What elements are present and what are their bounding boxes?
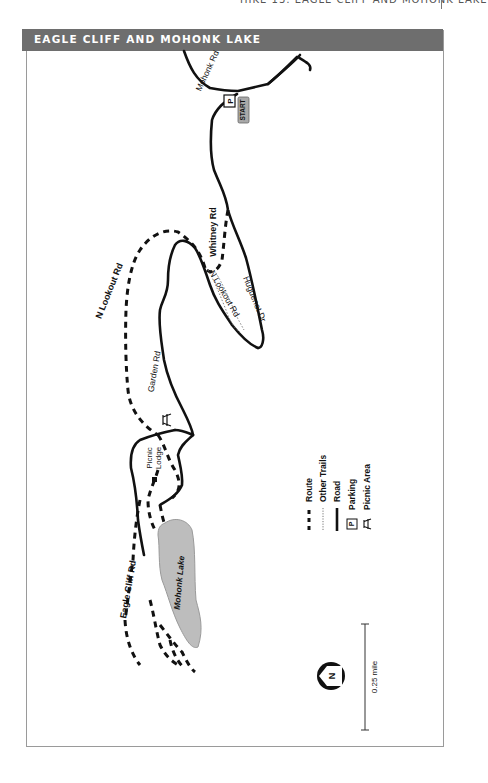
picnic-lodge-marker [152, 477, 157, 482]
start-badge: START [238, 97, 249, 123]
north-arrow-icon: N [317, 662, 345, 690]
svg-text:START: START [239, 99, 246, 120]
svg-text:P: P [348, 521, 355, 526]
label-garden-rd: Garden Rd [146, 350, 163, 393]
legend-item-route: Route [304, 478, 314, 530]
legend-item-road: Road [332, 481, 342, 531]
label-n-lookout-rd-outer: N Lookout Rd [94, 262, 125, 320]
roads [131, 51, 311, 555]
label-picnic-lodge-2: Lodge [154, 446, 163, 469]
svg-text:Route: Route [304, 478, 314, 502]
scale-bar: 0.25 mile [361, 624, 379, 730]
label-picnic-lodge-1: Picnic [145, 447, 154, 468]
label-whitney-rd: Whitney Rd [208, 207, 218, 257]
legend-item-parking: P Parking [347, 479, 357, 529]
svg-text:P: P [226, 98, 235, 104]
legend: Route Other Trails Road P Parking Picnic… [304, 454, 372, 531]
svg-text:Other Trails: Other Trails [318, 454, 328, 502]
svg-text:0.25 mile: 0.25 mile [370, 660, 379, 693]
svg-text:Picnic Area: Picnic Area [362, 464, 372, 510]
svg-text:N: N [327, 673, 337, 680]
picnic-area-icon [163, 414, 171, 426]
legend-item-other-trails: Other Trails [318, 454, 328, 530]
svg-text:Parking: Parking [347, 479, 357, 510]
parking-marker: P [224, 95, 235, 107]
label-eagle-cliff-rd: Eagle Cliff Rd [118, 560, 138, 619]
svg-text:Road: Road [332, 481, 342, 502]
legend-item-picnic-area: Picnic Area [362, 464, 372, 529]
label-huguenot-dr: Huguenot Dr [241, 275, 268, 324]
